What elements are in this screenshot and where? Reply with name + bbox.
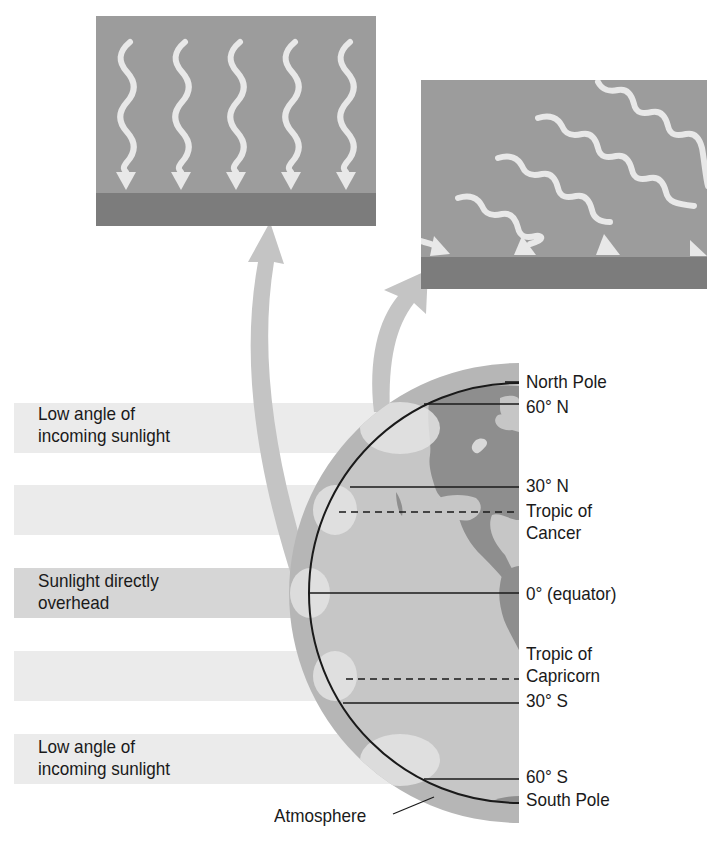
label-30s: 30° S: [526, 690, 568, 712]
label-atmosphere: Atmosphere: [274, 805, 366, 827]
panel-oblique-sunlight: [400, 80, 708, 289]
label-low-angle-south: Low angle of incoming sunlight: [38, 736, 170, 780]
label-60s: 60° S: [526, 766, 568, 788]
panel-oblique-sky: [421, 80, 707, 258]
panel-direct-ground: [96, 193, 376, 226]
label-30n: 30° N: [526, 475, 569, 497]
atmosphere-leader-line: [393, 797, 434, 814]
label-north-pole: North Pole: [526, 371, 607, 393]
label-south-pole: South Pole: [526, 789, 610, 811]
label-direct-overhead: Sunlight directly overhead: [38, 570, 159, 614]
label-equator: 0° (equator): [526, 583, 616, 605]
label-low-angle-north: Low angle of incoming sunlight: [38, 403, 170, 447]
panel-direct-sunlight: [96, 16, 376, 226]
label-tropic-cancer: Tropic of Cancer: [526, 500, 592, 544]
label-tropic-capricorn: Tropic of Capricorn: [526, 643, 600, 687]
label-60n: 60° N: [526, 396, 569, 418]
panel-oblique-ground: [421, 257, 707, 289]
